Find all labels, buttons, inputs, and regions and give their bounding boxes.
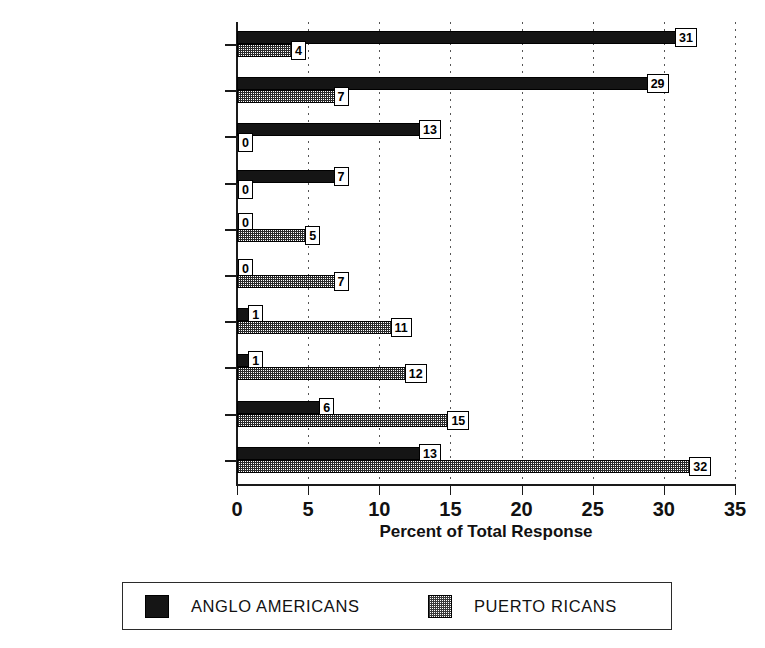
x-axis-tick-label: 25: [563, 498, 623, 521]
category-tick: [225, 460, 237, 462]
x-axis-tick-label: 20: [492, 498, 552, 521]
category-tick: [225, 90, 237, 92]
x-axis-tick: [522, 484, 523, 495]
x-axis-tick: [450, 484, 451, 495]
x-axis-tick: [664, 484, 665, 495]
category-tick: [225, 321, 237, 323]
bar-anglo: [237, 401, 322, 414]
bar-value-label: 0: [238, 180, 253, 199]
category-tick: [225, 414, 237, 416]
chart-category-row: BAD,VICE112: [237, 345, 735, 391]
x-axis-tick-label: 10: [349, 498, 409, 521]
bar-puerto: [237, 90, 337, 103]
x-axis-title: Percent of Total Response: [237, 522, 735, 542]
bar-puerto: [237, 44, 294, 57]
category-tick: [225, 44, 237, 46]
bar-puerto: [237, 460, 692, 473]
legend-swatch-icon-puerto-ricans: [428, 595, 452, 618]
legend-swatch-icon-anglo-americans: [145, 595, 169, 618]
category-tick: [225, 183, 237, 185]
chart-legend: ANGLO AMERICANS PUERTO RICANS: [122, 582, 672, 630]
x-axis-tick: [237, 484, 238, 495]
category-tick: [225, 136, 237, 138]
gridline: [735, 22, 736, 484]
bar-anglo: [237, 77, 650, 90]
bar-anglo: [237, 123, 422, 136]
category-tick: [225, 367, 237, 369]
chart-category-row: PROBLEMS05: [237, 207, 735, 253]
bar-puerto: [237, 275, 337, 288]
bar-puerto: [237, 229, 308, 242]
legend-item-puerto-ricans: PUERTO RICANS: [428, 593, 617, 619]
chart-category-row: JOINT,SMOKE297: [237, 68, 735, 114]
chart-category-row: YOUTH07: [237, 253, 735, 299]
x-axis-tick-label: 30: [634, 498, 694, 521]
x-axis-line: [236, 484, 736, 486]
bar-value-label: 31: [675, 28, 697, 47]
chart-title: [0, 0, 765, 4]
x-axis-tick-label: 15: [420, 498, 480, 521]
bar-anglo: [237, 447, 422, 460]
bar-value-label: 11: [391, 318, 412, 337]
legend-item-anglo-americans: ANGLO AMERICANS: [145, 593, 360, 619]
category-tick: [225, 275, 237, 277]
x-axis-tick-label: 35: [705, 498, 765, 521]
x-axis-tick: [308, 484, 309, 495]
bar-value-label: 13: [419, 120, 441, 139]
chart-category-row: PARTY,FUN70: [237, 161, 735, 207]
bar-value-label: 5: [305, 226, 320, 245]
chart-category-row: DRUGS,ADDICTION1332: [237, 438, 735, 484]
x-axis-tick-label: 0: [207, 498, 267, 521]
bar-value-label: 29: [647, 74, 669, 93]
x-axis-tick: [379, 484, 380, 495]
bar-puerto: [237, 367, 408, 380]
chart-category-row: ILLNESS,DEATH111: [237, 299, 735, 345]
bar-value-label: 4: [291, 41, 306, 60]
bar-value-label: 7: [334, 87, 349, 106]
bar-value-label: 32: [689, 457, 711, 476]
legend-label-puerto-ricans: PUERTO RICANS: [474, 597, 617, 616]
bar-value-label: 7: [334, 272, 349, 291]
chart-category-row: POT,GRASS314: [237, 22, 735, 68]
bar-value-label: 15: [447, 411, 469, 430]
x-axis-tick: [735, 484, 736, 495]
chart-category-row: HIGH,STONED130: [237, 114, 735, 160]
x-axis-tick-label: 5: [278, 498, 338, 521]
chart-category-row: ILLEGAL,JAIL615: [237, 392, 735, 438]
bar-value-label: 7: [334, 167, 349, 186]
bar-puerto: [237, 321, 394, 334]
bar-chart: 05101520253035 POT,GRASS314JOINT,SMOKE29…: [0, 0, 765, 648]
plot-area: 05101520253035 POT,GRASS314JOINT,SMOKE29…: [237, 22, 735, 484]
category-tick: [225, 229, 237, 231]
legend-label-anglo-americans: ANGLO AMERICANS: [191, 597, 360, 616]
bar-puerto: [237, 414, 450, 427]
bar-value-label: 12: [405, 364, 427, 383]
x-axis-tick: [593, 484, 594, 495]
bar-value-label: 0: [238, 133, 253, 152]
